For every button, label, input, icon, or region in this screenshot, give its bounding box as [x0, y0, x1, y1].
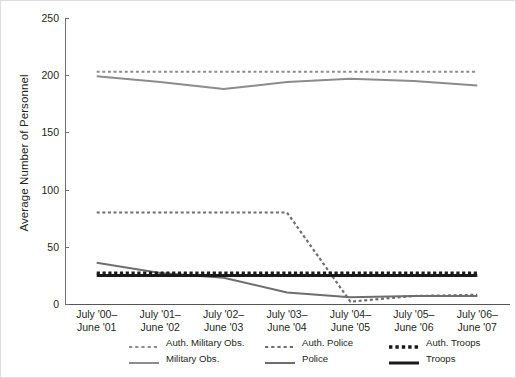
series-container: [65, 18, 509, 305]
x-tick-line2: June '07: [434, 321, 516, 334]
x-axis-tick-labels: July '00–June '01July '01–June '02July '…: [65, 308, 509, 336]
chart-legend: Auth. Military Obs.Auth. PoliceAuth. Tro…: [129, 338, 501, 370]
legend-marker: [129, 338, 159, 348]
y-tick-mark-150: [65, 132, 69, 133]
legend-item-auth-military-obs[interactable]: Auth. Military Obs.: [129, 338, 244, 348]
y-tick-mark-0: [65, 304, 69, 305]
plot-area: [65, 18, 509, 304]
series-line-police: [97, 263, 478, 297]
legend-marker: [389, 354, 419, 364]
legend-label: Police: [302, 354, 328, 364]
legend-marker: [265, 354, 295, 364]
legend-label: Auth. Troops: [426, 338, 480, 348]
y-tick-50: 50: [47, 241, 59, 253]
y-tick-mark-50: [65, 247, 69, 248]
series-line-military-obs: [97, 76, 478, 89]
y-tick-250: 250: [41, 12, 59, 24]
legend-label: Auth. Police: [302, 338, 353, 348]
legend-item-auth-police[interactable]: Auth. Police: [265, 338, 353, 348]
legend-row-authorized: Auth. Military Obs.Auth. PoliceAuth. Tro…: [129, 338, 501, 352]
legend-swatch-troops: [389, 358, 419, 368]
y-tick-mark-250: [65, 18, 69, 19]
y-axis-tick-labels: 050100150200250: [1, 18, 59, 304]
legend-label: Military Obs.: [166, 354, 219, 364]
legend-label: Auth. Military Obs.: [166, 338, 244, 348]
series-line-auth-police: [97, 212, 478, 301]
y-tick-150: 150: [41, 126, 59, 138]
y-tick-mark-200: [65, 75, 69, 76]
legend-item-auth-troops[interactable]: Auth. Troops: [389, 338, 480, 348]
legend-swatch-auth-military-obs: [129, 342, 159, 352]
x-tick-6: July '06–June '07: [434, 308, 516, 333]
y-tick-200: 200: [41, 69, 59, 81]
x-tick-line1: July '06–: [434, 308, 516, 321]
legend-row-actual: Military Obs.PoliceTroops: [129, 354, 501, 368]
legend-swatch-police: [265, 358, 295, 368]
y-tick-mark-100: [65, 190, 69, 191]
legend-marker: [265, 338, 295, 348]
legend-item-police[interactable]: Police: [265, 354, 328, 364]
legend-swatch-military-obs: [129, 358, 159, 368]
chart-figure: Average Number of Personnel 050100150200…: [0, 0, 516, 378]
y-tick-100: 100: [41, 184, 59, 196]
legend-item-troops[interactable]: Troops: [389, 354, 456, 364]
legend-item-military-obs[interactable]: Military Obs.: [129, 354, 219, 364]
legend-marker: [129, 354, 159, 364]
legend-swatch-auth-police: [265, 342, 295, 352]
legend-swatch-auth-troops: [389, 342, 419, 352]
legend-label: Troops: [426, 354, 456, 364]
legend-marker: [389, 338, 419, 348]
